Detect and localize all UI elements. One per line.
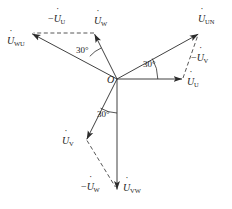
- phasor-label-u-wu: UWU: [7, 36, 25, 46]
- origin-label: O: [107, 75, 114, 85]
- angle-label-lower: 30°: [97, 110, 110, 119]
- phasor-label-u-u: UU: [187, 77, 199, 87]
- phasor-u-w-line: [95, 34, 117, 79]
- phasor-label-neg-u-w: −UW: [81, 182, 100, 192]
- phasor-diagram-canvas: [0, 0, 232, 209]
- phasor-label-u-vw: UVW: [123, 183, 141, 193]
- phasor-label-u-un: UUN: [198, 14, 215, 24]
- phasor-diagram-figure: O UU UV UW UUN UVW UWU −UU −UV −UW 30° 3…: [0, 0, 232, 209]
- phasor-label-u-w: UW: [94, 16, 107, 26]
- angle-arc-upper-left: [90, 48, 101, 56]
- angle-label-upper-left: 30°: [76, 46, 89, 55]
- phasor-u-wu-line: [32, 34, 117, 79]
- phasor-label-neg-u-v: −UV: [191, 53, 209, 63]
- angle-label-right: 30°: [143, 60, 156, 69]
- phasor-label-neg-u-u: −UU: [48, 14, 66, 24]
- phasor-label-u-v: UV: [62, 136, 74, 146]
